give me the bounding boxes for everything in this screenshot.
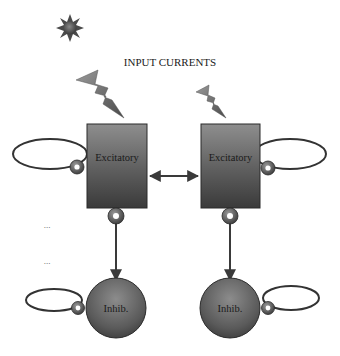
ellipsis-mark: ... (44, 256, 51, 266)
neural-circuit-diagram: INPUT CURRENTS Excitatory Excitatory Inh… (0, 0, 340, 356)
ellipsis-mark: ... (44, 220, 51, 230)
diagram-title: INPUT CURRENTS (124, 56, 216, 68)
lightning-bolt-icon-left (76, 70, 124, 118)
synapse-ring-exc-right-loop (261, 161, 275, 175)
synapse-ring-exc-left-down (108, 208, 124, 224)
node-label: Inhib. (104, 303, 129, 314)
synapse-ring-exc-right-down (222, 208, 238, 224)
node-inhibitory-left[interactable]: Inhib. (86, 278, 146, 338)
node-excitatory-right[interactable]: Excitatory (201, 124, 260, 208)
synapse-ring-exc-left-loop (70, 160, 84, 174)
synapse-ring-inh-right-loop (262, 302, 275, 315)
node-excitatory-left[interactable]: Excitatory (87, 124, 147, 208)
node-label: Excitatory (95, 152, 139, 163)
node-label: Excitatory (209, 152, 253, 163)
lightning-bolt-icon-right (196, 85, 226, 118)
node-inhibitory-right[interactable]: Inhib. (200, 278, 260, 338)
node-label: Inhib. (218, 303, 243, 314)
sun-icon (56, 14, 84, 42)
synapse-ring-inh-left-loop (72, 302, 85, 315)
